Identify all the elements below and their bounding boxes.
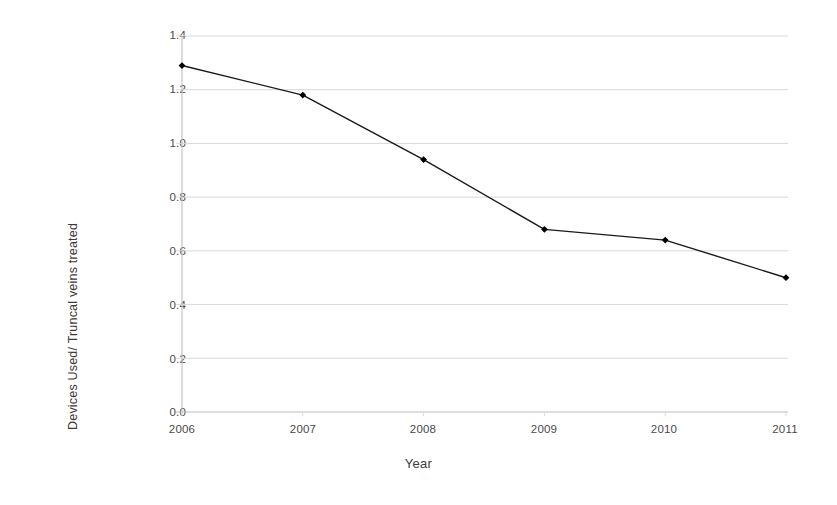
data-point-marker: [299, 92, 306, 99]
data-point-marker: [420, 156, 427, 163]
plot-area: [0, 0, 837, 505]
data-point-marker: [179, 62, 186, 69]
series-line: [182, 66, 786, 278]
data-point-marker: [662, 237, 669, 244]
series-markers: [179, 62, 790, 281]
line-chart: Devices Used/ Truncal veins treated Year…: [0, 0, 837, 505]
x-tick-marks: [182, 412, 786, 416]
data-point-marker: [541, 226, 548, 233]
data-point-marker: [783, 274, 790, 281]
gridlines: [176, 36, 788, 412]
